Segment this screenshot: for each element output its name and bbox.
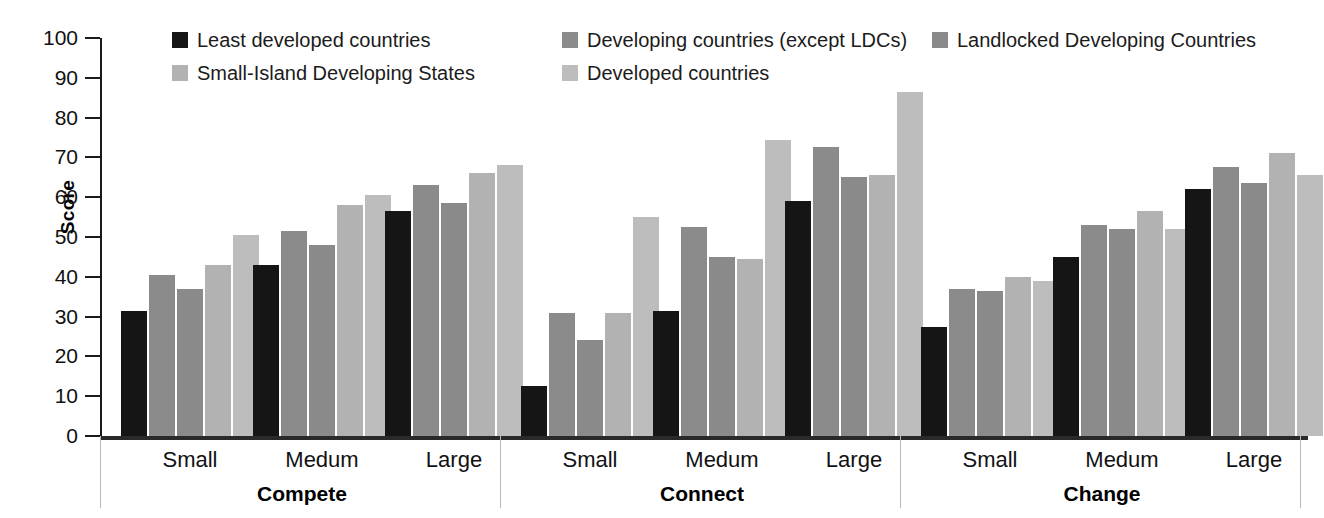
bar-connect-medum-series1[interactable] [653, 311, 679, 436]
section-divider-connect [500, 436, 501, 508]
bar-change-medum-series4[interactable] [1137, 211, 1163, 436]
bar-change-medum-series3[interactable] [1109, 229, 1135, 436]
bar-connect-small-series3[interactable] [577, 340, 603, 436]
x-size-label-compete-medum: Medum [252, 447, 392, 473]
y-tick-mark-100 [85, 37, 100, 39]
bar-connect-large-series3[interactable] [841, 177, 867, 436]
bar-connect-large-series1[interactable] [785, 201, 811, 436]
bar-group-inner [921, 38, 1059, 436]
bar-change-small-series1[interactable] [921, 327, 947, 436]
x-size-label-change-large: Large [1184, 447, 1324, 473]
section-divider-change [900, 436, 901, 508]
y-tick-label-30: 30 [20, 306, 78, 327]
y-axis-tick-labels: 1009080706050403020100 [20, 0, 78, 518]
chart-legend: Least developed countriesDeveloping coun… [172, 30, 1312, 92]
bar-group-inner [785, 38, 923, 436]
legend-label-5: Developed countries [587, 63, 769, 83]
bar-change-small-series2[interactable] [949, 289, 975, 436]
y-tick-mark-80 [85, 117, 100, 119]
bar-compete-medum-series2[interactable] [281, 231, 307, 436]
x-size-label-connect-medum: Medum [652, 447, 792, 473]
bar-change-large-series5[interactable] [1297, 175, 1323, 436]
plot-area [102, 38, 1302, 436]
bar-change-small-series3[interactable] [977, 291, 1003, 436]
bar-connect-large-series4[interactable] [869, 175, 895, 436]
legend-item-1[interactable]: Least developed countries [172, 30, 431, 50]
bar-compete-medum-series3[interactable] [309, 245, 335, 436]
bar-compete-large-series2[interactable] [413, 185, 439, 436]
x-size-label-compete-large: Large [384, 447, 524, 473]
section-divider-end [1300, 436, 1301, 508]
y-tick-label-20: 20 [20, 345, 78, 366]
bar-compete-medum-series1[interactable] [253, 265, 279, 436]
y-tick-label-80: 80 [20, 107, 78, 128]
y-tick-mark-10 [85, 395, 100, 397]
y-tick-label-100: 100 [20, 27, 78, 48]
x-size-label-connect-small: Small [520, 447, 660, 473]
bar-group-inner [253, 38, 391, 436]
bar-group-inner [1053, 38, 1191, 436]
bar-connect-large-series2[interactable] [813, 147, 839, 436]
bar-connect-medum-series2[interactable] [681, 227, 707, 436]
y-tick-label-50: 50 [20, 226, 78, 247]
bar-group-compete-large [384, 38, 524, 436]
bar-change-large-series3[interactable] [1241, 183, 1267, 436]
bar-group-change-medum [1052, 38, 1192, 436]
bar-change-medum-series2[interactable] [1081, 225, 1107, 436]
legend-item-5[interactable]: Developed countries [562, 63, 769, 83]
x-size-label-change-medum: Medum [1052, 447, 1192, 473]
bar-group-connect-small [520, 38, 660, 436]
x-axis-line [100, 436, 1308, 440]
y-tick-label-40: 40 [20, 266, 78, 287]
legend-swatch-icon-2 [562, 32, 578, 48]
x-section-label-change: Change [972, 482, 1232, 506]
bar-group-inner [121, 38, 259, 436]
bar-group-compete-medum [252, 38, 392, 436]
bar-change-large-series2[interactable] [1213, 167, 1239, 436]
bar-group-inner [1185, 38, 1323, 436]
bar-change-large-series1[interactable] [1185, 189, 1211, 436]
legend-item-2[interactable]: Developing countries (except LDCs) [562, 30, 907, 50]
legend-label-3: Landlocked Developing Countries [957, 30, 1256, 50]
y-tick-label-10: 10 [20, 385, 78, 406]
bar-compete-small-series2[interactable] [149, 275, 175, 436]
bar-connect-medum-series3[interactable] [709, 257, 735, 436]
y-tick-mark-50 [85, 236, 100, 238]
bar-compete-small-series1[interactable] [121, 311, 147, 436]
bar-compete-small-series4[interactable] [205, 265, 231, 436]
y-axis-ticks [85, 0, 101, 518]
y-tick-label-0: 0 [20, 425, 78, 446]
y-tick-label-70: 70 [20, 146, 78, 167]
legend-swatch-icon-4 [172, 65, 188, 81]
y-tick-mark-30 [85, 316, 100, 318]
bar-compete-large-series4[interactable] [469, 173, 495, 436]
bar-group-inner [653, 38, 791, 436]
x-section-label-compete: Compete [172, 482, 432, 506]
bar-connect-small-series4[interactable] [605, 313, 631, 436]
bar-change-large-series4[interactable] [1269, 153, 1295, 436]
y-tick-mark-60 [85, 196, 100, 198]
bar-compete-medum-series4[interactable] [337, 205, 363, 436]
bar-change-small-series4[interactable] [1005, 277, 1031, 436]
bar-change-medum-series1[interactable] [1053, 257, 1079, 436]
bar-group-change-small [920, 38, 1060, 436]
bar-compete-large-series1[interactable] [385, 211, 411, 436]
bar-group-change-large [1184, 38, 1324, 436]
legend-item-3[interactable]: Landlocked Developing Countries [932, 30, 1256, 50]
y-tick-mark-40 [85, 276, 100, 278]
bar-group-inner [385, 38, 523, 436]
bar-connect-medum-series4[interactable] [737, 259, 763, 436]
legend-item-4[interactable]: Small-Island Developing States [172, 63, 475, 83]
y-tick-mark-0 [85, 435, 100, 437]
legend-label-4: Small-Island Developing States [197, 63, 475, 83]
x-size-label-connect-large: Large [784, 447, 924, 473]
y-tick-label-90: 90 [20, 67, 78, 88]
bar-compete-large-series3[interactable] [441, 203, 467, 436]
section-divider-compete [100, 436, 101, 508]
x-size-label-change-small: Small [920, 447, 1060, 473]
bar-connect-small-series2[interactable] [549, 313, 575, 436]
bar-compete-small-series3[interactable] [177, 289, 203, 436]
bar-connect-small-series1[interactable] [521, 386, 547, 436]
legend-swatch-icon-1 [172, 32, 188, 48]
x-section-label-connect: Connect [572, 482, 832, 506]
